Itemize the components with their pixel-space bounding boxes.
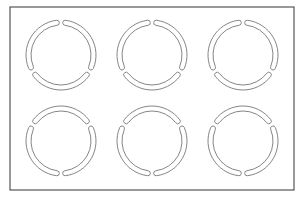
ring-segment bbox=[63, 20, 96, 70]
ring-segment bbox=[117, 20, 150, 70]
ring-top-left bbox=[26, 20, 96, 90]
ring-segment bbox=[245, 20, 278, 70]
ring-segment bbox=[26, 20, 59, 70]
ring-segment bbox=[215, 106, 272, 124]
ring-segment bbox=[117, 126, 150, 176]
ring-segment bbox=[245, 126, 278, 176]
ring-segment bbox=[63, 126, 96, 176]
ring-segment bbox=[215, 72, 272, 90]
ring-segment bbox=[124, 72, 181, 90]
diagram-frame bbox=[10, 7, 294, 190]
ring-bottom-right bbox=[208, 106, 278, 176]
ring-bottom-left bbox=[26, 106, 96, 176]
ring-segment bbox=[208, 20, 241, 70]
ring-segment bbox=[33, 106, 90, 124]
ring-segment bbox=[33, 72, 90, 90]
ring-segment bbox=[124, 106, 181, 124]
ring-segment bbox=[154, 20, 187, 70]
diagram-canvas bbox=[0, 0, 302, 197]
ring-bottom-middle bbox=[117, 106, 187, 176]
rings-group bbox=[26, 20, 278, 175]
ring-top-middle bbox=[117, 20, 187, 90]
ring-segment bbox=[208, 126, 241, 176]
ring-top-right bbox=[208, 20, 278, 90]
ring-segment bbox=[26, 126, 59, 176]
ring-segment bbox=[154, 126, 187, 176]
